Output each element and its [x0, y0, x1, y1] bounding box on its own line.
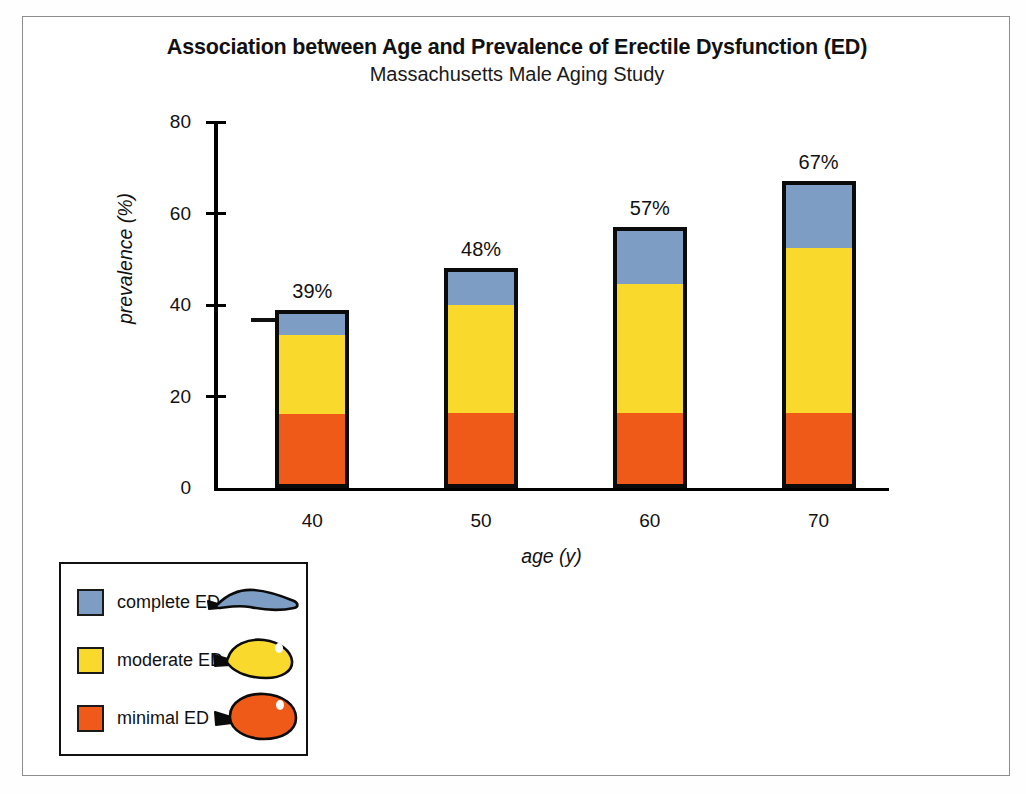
- bar-value-label: 39%: [245, 280, 379, 303]
- bar-value-label: 48%: [414, 238, 548, 261]
- bar-group: 57%60: [613, 17, 687, 548]
- bar-segment-complete-ed: [279, 314, 345, 336]
- inflated-balloon-icon: [204, 690, 304, 746]
- bar-value-label: 67%: [752, 151, 886, 174]
- bar-segment-minimal-ed: [448, 413, 514, 484]
- legend: complete EDmoderate EDminimal ED: [59, 562, 308, 756]
- bar-segment-complete-ed: [448, 272, 514, 305]
- x-tick-label: 40: [235, 510, 389, 532]
- stacked-bar[interactable]: [275, 310, 349, 488]
- stray-dash-annotation: [251, 318, 275, 322]
- bar-segment-minimal-ed: [786, 413, 852, 484]
- x-tick-label: 50: [404, 510, 558, 532]
- y-tick-mark: [206, 212, 226, 215]
- bar-segment-complete-ed: [617, 231, 683, 284]
- stacked-bar[interactable]: [782, 181, 856, 488]
- y-tick-label: 40: [147, 295, 191, 314]
- deflated-balloon-icon: [204, 574, 304, 630]
- stacked-bar[interactable]: [444, 268, 518, 488]
- y-tick-mark: [206, 304, 226, 307]
- legend-swatch: [77, 705, 104, 732]
- bar-segment-minimal-ed: [617, 413, 683, 484]
- legend-label: minimal ED: [117, 708, 209, 729]
- bar-segment-moderate-ed: [786, 248, 852, 413]
- y-tick-label: 60: [147, 204, 191, 223]
- y-tick-label: 80: [147, 112, 191, 131]
- legend-swatch: [77, 647, 104, 674]
- y-axis-label: prevalence (%): [114, 139, 137, 379]
- y-tick-mark: [206, 395, 226, 398]
- legend-item-moderate-ed[interactable]: moderate ED: [61, 632, 306, 688]
- partially-inflated-balloon-icon: [204, 632, 304, 688]
- bar-segment-complete-ed: [786, 185, 852, 247]
- y-tick-mark: [206, 121, 226, 124]
- y-tick-label: 0: [147, 478, 191, 497]
- legend-item-complete-ed[interactable]: complete ED: [61, 574, 306, 630]
- bar-group: 39%40: [275, 17, 349, 548]
- stacked-bar[interactable]: [613, 227, 687, 488]
- x-tick-label: 70: [742, 510, 896, 532]
- bar-segment-minimal-ed: [279, 414, 345, 484]
- bar-group: 67%70: [782, 17, 856, 548]
- figure-canvas: Association between Age and Prevalence o…: [0, 0, 1026, 794]
- figure-frame: Association between Age and Prevalence o…: [22, 16, 1010, 776]
- bar-segment-moderate-ed: [448, 305, 514, 413]
- y-tick-label: 20: [147, 387, 191, 406]
- bar-group: 48%50: [444, 17, 518, 548]
- bar-segment-moderate-ed: [279, 335, 345, 414]
- x-tick-label: 60: [573, 510, 727, 532]
- x-axis-label: age (y): [214, 545, 889, 568]
- bar-segment-moderate-ed: [617, 284, 683, 413]
- bar-value-label: 57%: [583, 197, 717, 220]
- legend-swatch: [77, 589, 104, 616]
- legend-item-minimal-ed[interactable]: minimal ED: [61, 690, 306, 746]
